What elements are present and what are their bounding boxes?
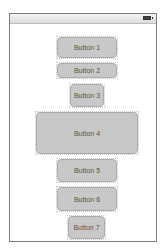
button-4[interactable]: Button 4: [36, 112, 138, 154]
button-2-label: Button 2: [74, 67, 100, 74]
button-6-label: Button 6: [74, 196, 100, 203]
button-2[interactable]: Button 2: [57, 63, 117, 78]
button-7[interactable]: Button 7: [68, 216, 105, 239]
button-1[interactable]: Button 1: [57, 37, 117, 58]
button-4-label: Button 4: [74, 130, 100, 137]
status-bar: [10, 14, 156, 24]
button-6[interactable]: Button 6: [57, 187, 117, 211]
button-7-label: Button 7: [73, 224, 99, 231]
button-5[interactable]: Button 5: [57, 159, 117, 182]
button-1-label: Button 1: [74, 44, 100, 51]
button-3[interactable]: Button 3: [70, 84, 104, 107]
button-3-label: Button 3: [74, 92, 100, 99]
battery-icon: [143, 16, 151, 20]
button-5-label: Button 5: [74, 167, 100, 174]
